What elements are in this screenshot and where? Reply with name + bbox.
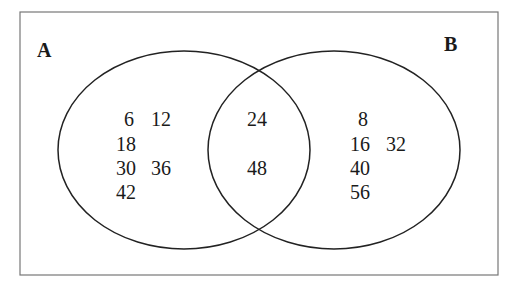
b-only-value: 16 [350,133,370,155]
set-b-label: B [444,33,457,55]
b-only-value: 40 [350,157,370,179]
venn-diagram: A B 6 12 18 30 36 42 24 48 8 16 32 40 56 [0,0,510,285]
a-only-value: 6 [124,108,134,130]
b-only-value: 32 [386,133,406,155]
intersection-value: 48 [247,157,267,179]
b-only-value: 8 [358,108,368,130]
a-only-value: 30 [116,157,136,179]
set-a-label: A [37,39,52,61]
a-only-value: 36 [151,157,171,179]
a-only-value: 42 [116,181,136,203]
intersection-value: 24 [247,108,267,130]
universal-set-frame [20,12,498,275]
a-only-value: 12 [151,108,171,130]
b-only-value: 56 [350,181,370,203]
a-only-value: 18 [116,133,136,155]
